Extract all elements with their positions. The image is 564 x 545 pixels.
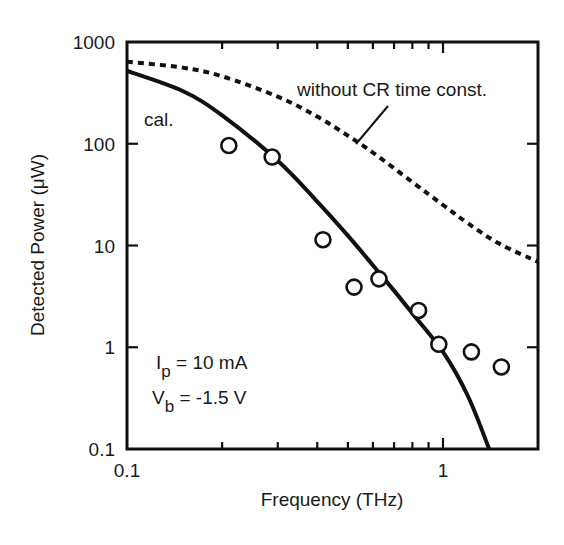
x-axis-title: Frequency (THz)	[261, 489, 404, 510]
ip-rest: = 10 mA	[171, 352, 248, 373]
cal-label: cal.	[144, 109, 174, 130]
y-tick-label: 100	[83, 134, 115, 155]
y-tick-label: 0.1	[89, 439, 115, 460]
cr-leader-line	[356, 106, 388, 144]
data-point-marker	[315, 232, 330, 247]
y-tick-label: 10	[94, 236, 115, 257]
cr-label: without CR time const.	[296, 79, 487, 100]
ip-sub: p	[161, 362, 170, 381]
data-point-marker	[464, 344, 479, 359]
y-tick-label: 1000	[73, 32, 115, 53]
data-point-marker	[494, 359, 509, 374]
x-tick-label: 0.1	[114, 460, 140, 481]
data-point-marker	[221, 138, 236, 153]
ip-annotation: Ip = 10 mA	[156, 352, 248, 381]
vb-sub: b	[165, 397, 174, 416]
y-axis-title: Detected Power (μW)	[27, 154, 48, 336]
y-tick-label: 1	[104, 337, 115, 358]
data-point-marker	[371, 271, 386, 286]
chart: 0.111010010000.11 Frequency (THz) Detect…	[0, 0, 564, 545]
data-point-marker	[431, 337, 446, 352]
data-point-marker	[265, 150, 280, 165]
vb-main: V	[152, 387, 165, 408]
x-tick-label: 1	[438, 460, 449, 481]
data-point-marker	[411, 303, 426, 318]
vb-annotation: Vb = -1.5 V	[152, 387, 247, 416]
vb-rest: = -1.5 V	[174, 387, 247, 408]
data-point-marker	[347, 280, 362, 295]
